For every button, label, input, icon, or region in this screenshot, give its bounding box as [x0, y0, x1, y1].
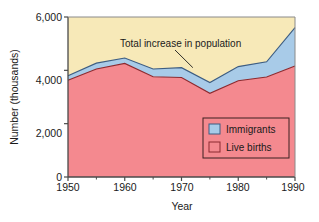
area-series-live-births	[68, 63, 295, 177]
y-tick-label-6000: 6,000	[36, 11, 62, 23]
y-axis-title: Number (thousands)	[8, 49, 20, 145]
x-tick-label-1980: 1980	[226, 181, 250, 193]
y-tick-label-2000: 2,000	[36, 127, 62, 139]
annotation-total-increase: Total increase in population	[120, 38, 241, 49]
legend-swatch-live-births	[209, 142, 220, 152]
x-tick-label-1970: 1970	[170, 181, 194, 193]
x-axis-title: Year	[171, 200, 193, 212]
x-tick-label-1990: 1990	[281, 181, 305, 193]
x-tick-label-1960: 1960	[113, 181, 137, 193]
x-tick-label-1950: 1950	[56, 181, 80, 193]
area-chart: 6,000 4,000 2,000 0 1950 1960 1970 1980 …	[0, 0, 319, 222]
legend-label-immigrants: Immigrants	[226, 124, 275, 135]
legend-swatch-immigrants	[209, 124, 220, 134]
chart-figure: 6,000 4,000 2,000 0 1950 1960 1970 1980 …	[0, 0, 319, 222]
y-tick-label-4000: 4,000	[36, 74, 62, 86]
legend-label-live-births: Live births	[226, 142, 272, 153]
